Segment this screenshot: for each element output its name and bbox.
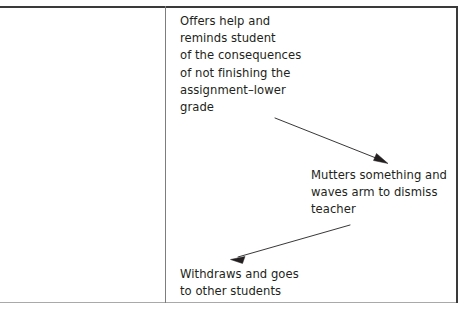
text-block-withdraws: Withdraws and goes to other students (180, 266, 320, 300)
table-cell-left-empty (0, 8, 165, 302)
table-bottom-rule (0, 302, 458, 303)
text-block-offers-help: Offers help and reminds student of the c… (180, 13, 315, 116)
text-block-mutters: Mutters something and waves arm to dismi… (311, 167, 456, 219)
figure-canvas: Offers help and reminds student of the c… (0, 0, 476, 315)
table-right-rule (456, 6, 458, 303)
